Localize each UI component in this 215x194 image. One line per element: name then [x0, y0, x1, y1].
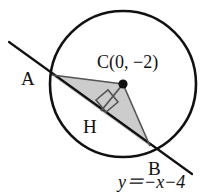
geometry-diagram: C(0, −2) A B H y＝−x−4: [0, 0, 215, 194]
center-point-dot: [118, 79, 127, 88]
point-label-H: H: [83, 116, 97, 137]
line-equation-label: y＝−x−4: [116, 172, 185, 192]
center-label-C: C(0, −2): [97, 52, 158, 73]
geometry-figure-container: C(0, −2) A B H y＝−x−4: [0, 0, 215, 194]
point-label-A: A: [21, 68, 35, 89]
